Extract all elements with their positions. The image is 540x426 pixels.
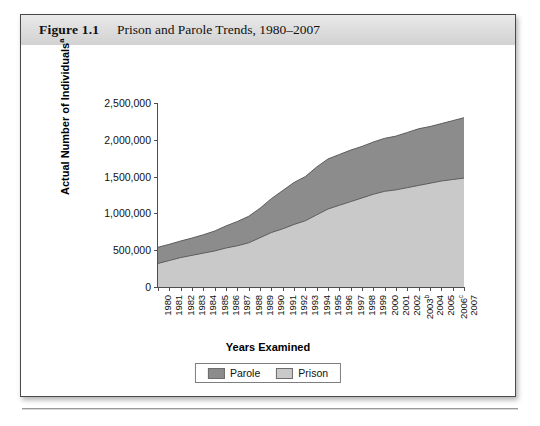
figure-number: Figure 1.1	[39, 22, 99, 38]
x-tick-label-superscript: b	[423, 295, 430, 299]
x-tick-label: 2006c	[457, 295, 469, 319]
x-tick	[339, 287, 340, 291]
x-tick-label: 1990	[275, 295, 286, 316]
x-tick	[419, 287, 420, 291]
x-tick-label: 2004	[434, 295, 445, 316]
x-tick	[453, 287, 454, 291]
x-tick-label: 1993	[309, 295, 320, 316]
x-tick-label: 1980	[162, 295, 173, 316]
x-tick	[181, 287, 182, 291]
y-tick-label: 2,500,000	[104, 97, 151, 109]
x-tick-label: 1999	[377, 295, 388, 316]
x-tick-label: 1995	[332, 295, 343, 316]
page-rule	[22, 408, 518, 410]
x-tick-label: 1983	[196, 295, 207, 316]
y-axis-title-superscript: a	[57, 39, 66, 43]
x-tick	[351, 287, 352, 291]
x-tick-label: 1988	[253, 295, 264, 316]
x-tick-label: 2003b	[423, 295, 435, 319]
x-tick-label: 1989	[264, 295, 275, 316]
x-tick	[385, 287, 386, 291]
y-axis-title: Actual Number of Individualsa	[57, 39, 71, 195]
x-tick	[226, 287, 227, 291]
x-tick-label: 2002	[411, 295, 422, 316]
x-tick	[317, 287, 318, 291]
x-tick	[169, 287, 170, 291]
legend-label-parole: Parole	[230, 367, 260, 379]
y-tick-label: 2,000,000	[104, 134, 151, 146]
y-tick	[154, 213, 158, 214]
x-tick	[430, 287, 431, 291]
y-tick	[154, 177, 158, 178]
y-tick-label: 1,000,000	[104, 207, 151, 219]
figure-card: Figure 1.1 Prison and Parole Trends, 198…	[20, 14, 516, 397]
x-tick-label: 1984	[207, 295, 218, 316]
chart-legend: Parole Prison	[195, 363, 341, 383]
x-tick	[283, 287, 284, 291]
x-tick	[396, 287, 397, 291]
y-tick-label: 0	[145, 281, 151, 293]
parole-color-swatch	[208, 368, 225, 379]
x-tick	[294, 287, 295, 291]
legend-item-prison: Prison	[276, 367, 328, 379]
x-tick-label: 1996	[343, 295, 354, 316]
x-tick-label: 1982	[185, 295, 196, 316]
x-tick-label: 2000	[389, 295, 400, 316]
x-tick-label-superscript: c	[457, 295, 464, 298]
x-tick-label: 2001	[400, 295, 411, 316]
x-tick-label: 2005	[445, 295, 456, 316]
x-tick	[373, 287, 374, 291]
x-tick-label: 1981	[173, 295, 184, 316]
x-tick	[441, 287, 442, 291]
chart-region: Actual Number of Individualsa 0500,0001,…	[21, 45, 515, 396]
x-tick	[237, 287, 238, 291]
x-tick	[158, 287, 159, 291]
x-tick-label: 1991	[287, 295, 298, 316]
x-axis-title: Years Examined	[21, 341, 515, 353]
x-tick-label: 1992	[298, 295, 309, 316]
x-tick-label: 1998	[366, 295, 377, 316]
y-axis-title-text: Actual Number of Individuals	[59, 43, 71, 195]
x-tick	[362, 287, 363, 291]
y-tick	[154, 140, 158, 141]
x-tick-label: 1985	[219, 295, 230, 316]
y-tick	[154, 103, 158, 104]
x-tick	[271, 287, 272, 291]
x-tick	[192, 287, 193, 291]
x-tick-label: 1994	[321, 295, 332, 316]
x-tick	[260, 287, 261, 291]
x-tick	[407, 287, 408, 291]
x-tick	[464, 287, 465, 291]
x-tick	[203, 287, 204, 291]
plot-frame: 0500,0001,000,0001,500,0002,000,0002,500…	[158, 103, 464, 287]
legend-item-parole: Parole	[208, 367, 260, 379]
x-tick-label: 1986	[230, 295, 241, 316]
x-tick	[328, 287, 329, 291]
stacked-area-chart	[158, 103, 464, 287]
plot-area	[158, 103, 464, 287]
legend-label-prison: Prison	[298, 367, 328, 379]
x-tick-label: 1987	[241, 295, 252, 316]
x-tick-label: 2007	[468, 295, 479, 316]
prison-color-swatch	[276, 368, 293, 379]
figure-title: Prison and Parole Trends, 1980–2007	[117, 22, 320, 38]
y-tick-label: 500,000	[113, 244, 151, 256]
x-tick-label: 1997	[355, 295, 366, 316]
y-tick-label: 1,500,000	[104, 171, 151, 183]
x-tick	[249, 287, 250, 291]
x-tick	[215, 287, 216, 291]
x-tick	[305, 287, 306, 291]
y-tick	[154, 250, 158, 251]
